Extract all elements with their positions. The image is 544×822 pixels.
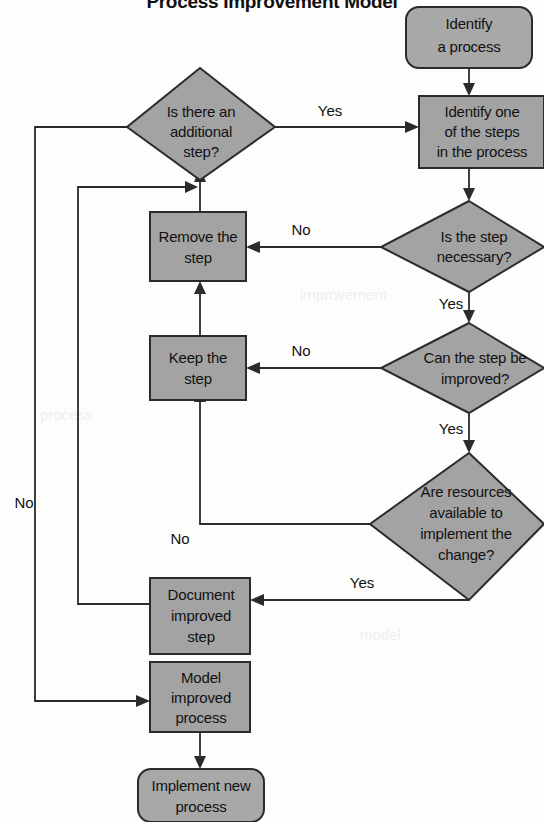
node-line-1: Are resources	[421, 483, 512, 500]
node-line-2: process	[175, 798, 226, 815]
node-shape-decision	[381, 323, 544, 413]
arrowhead-improved-yes	[463, 440, 475, 453]
node-line-1: Identify one	[444, 103, 519, 120]
node-identify-one-of-the-steps[interactable]: Identify one of the steps in the process	[419, 96, 544, 168]
arrowhead-additional-yes	[405, 121, 419, 133]
node-line-1: Is there an	[167, 103, 236, 120]
node-line-1: Keep the	[169, 349, 227, 366]
node-line-2: step	[184, 249, 212, 266]
edge-label-no-additional: No	[14, 494, 33, 511]
node-implement-new-process[interactable]: Implement new process	[138, 769, 264, 822]
node-line-3: implement the	[420, 525, 512, 542]
arrowhead-identify-to-step	[463, 83, 475, 96]
node-line-2: necessary?	[437, 248, 512, 265]
arrowhead-keep-to-remove	[194, 281, 206, 294]
node-can-the-step-be-improved[interactable]: Can the step be improved?	[381, 323, 544, 413]
node-is-there-an-additional-step[interactable]: Is there an additional step?	[127, 68, 275, 180]
svg-text:improvement: improvement	[300, 286, 388, 303]
flowchart-canvas: process improvement model Process Improv…	[0, 0, 544, 822]
node-shape-process	[150, 212, 246, 281]
svg-text:process: process	[40, 406, 93, 423]
edge-label-yes-necessary: Yes	[439, 295, 463, 312]
node-line-2: additional	[170, 123, 232, 140]
node-line-1: Document	[168, 586, 236, 603]
edges-layer	[35, 68, 475, 769]
node-model-improved-process[interactable]: Model improved process	[150, 662, 250, 732]
node-line-1: Implement new	[151, 777, 250, 794]
svg-text:model: model	[360, 626, 401, 643]
node-line-1: Remove the	[159, 228, 238, 245]
node-identify-a-process[interactable]: Identify a process	[406, 7, 532, 68]
arrowhead-resources-yes	[250, 594, 264, 606]
node-shape-process	[150, 336, 246, 400]
arrowhead-step-to-necessary	[463, 188, 475, 201]
edge-label-no-improved: No	[291, 342, 310, 359]
node-keep-the-step[interactable]: Keep the step	[150, 336, 246, 400]
node-line-2: improved?	[441, 370, 509, 387]
edge-label-no-necessary: No	[291, 221, 310, 238]
arrowhead-necessary-yes	[463, 310, 475, 323]
node-line-2: step	[184, 370, 212, 387]
node-line-1: Model	[181, 669, 221, 686]
node-is-the-step-necessary[interactable]: Is the step necessary?	[381, 201, 544, 292]
arrowhead-document-to-additional	[185, 181, 198, 193]
node-line-2: improved	[171, 607, 231, 624]
arrowhead-model-to-implement	[194, 756, 206, 769]
node-line-3: process	[175, 709, 226, 726]
edge-label-yes-resources: Yes	[350, 574, 374, 591]
edge-resources-no	[200, 400, 370, 524]
node-line-1: Identify	[446, 15, 493, 32]
node-line-3: step?	[183, 143, 219, 160]
node-line-2: available to	[429, 504, 503, 521]
edge-label-yes-improved: Yes	[439, 420, 463, 437]
node-line-3: in the process	[437, 143, 528, 160]
node-line-4: change?	[438, 546, 494, 563]
node-document-improved-step[interactable]: Document improved step	[150, 578, 250, 654]
node-line-2: improved	[171, 689, 231, 706]
edge-label-yes-additional: Yes	[318, 102, 342, 119]
process-improvement-flowchart: process improvement model Process Improv…	[0, 0, 544, 822]
node-line-2: a process	[437, 38, 500, 55]
node-line-3: step	[187, 628, 215, 645]
page-title: Process Improvement Model	[146, 0, 397, 12]
node-shape-decision	[381, 201, 544, 292]
arrowhead-improved-no	[246, 362, 260, 374]
node-line-1: Is the step	[440, 228, 507, 245]
edge-label-no-resources: No	[170, 530, 189, 547]
node-remove-the-step[interactable]: Remove the step	[150, 212, 246, 281]
node-line-1: Can the step be	[424, 349, 527, 366]
arrowhead-additional-no	[136, 695, 150, 707]
node-line-2: of the steps	[444, 123, 519, 140]
node-are-resources-available[interactable]: Are resources available to implement the…	[370, 453, 544, 600]
arrowhead-necessary-no	[246, 241, 260, 253]
